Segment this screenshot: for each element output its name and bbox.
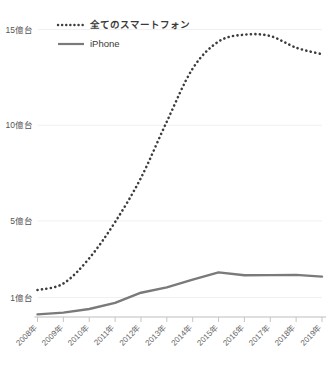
y-axis-tick-label: 10億台 xyxy=(6,120,33,130)
chart-legend: 全てのスマートフォンiPhone xyxy=(58,19,190,49)
x-axis-tick-label: 2019年 xyxy=(298,322,323,347)
x-axis xyxy=(35,317,327,322)
series-line-smartphones xyxy=(38,34,323,290)
x-axis-tick-label: 2008年 xyxy=(14,322,39,347)
x-axis-tick-label: 2011年 xyxy=(92,322,117,347)
x-axis-tick-label: 2018年 xyxy=(272,322,297,347)
x-axis-tick-label: 2013年 xyxy=(143,322,168,347)
x-axis-tick-label: 2009年 xyxy=(39,322,64,347)
y-axis-tick-label: 5億台 xyxy=(10,216,33,226)
x-axis-tick-label: 2017年 xyxy=(246,322,271,347)
y-axis-labels: 15億台10億台5億台1億台 xyxy=(6,25,33,303)
legend-label: iPhone xyxy=(90,38,120,49)
y-axis-tick-label: 15億台 xyxy=(6,25,33,35)
y-axis-tick-label: 1億台 xyxy=(10,293,33,303)
x-axis-tick-label: 2012年 xyxy=(117,322,142,347)
x-axis-tick-label: 2010年 xyxy=(65,322,90,347)
x-axis-tick-label: 2015年 xyxy=(195,322,220,347)
chart-canvas: 15億台10億台5億台1億台 2008年2009年2010年2011年2012年… xyxy=(0,0,335,376)
legend-label: 全てのスマートフォン xyxy=(89,19,190,30)
series-line-iphone xyxy=(38,272,323,314)
line-chart: 15億台10億台5億台1億台 2008年2009年2010年2011年2012年… xyxy=(0,0,335,376)
gridlines-group xyxy=(38,30,323,298)
series-group xyxy=(38,34,323,314)
x-axis-tick-label: 2014年 xyxy=(169,322,194,347)
x-axis-labels: 2008年2009年2010年2011年2012年2013年2014年2015年… xyxy=(14,322,324,347)
x-axis-tick-label: 2016年 xyxy=(221,322,246,347)
